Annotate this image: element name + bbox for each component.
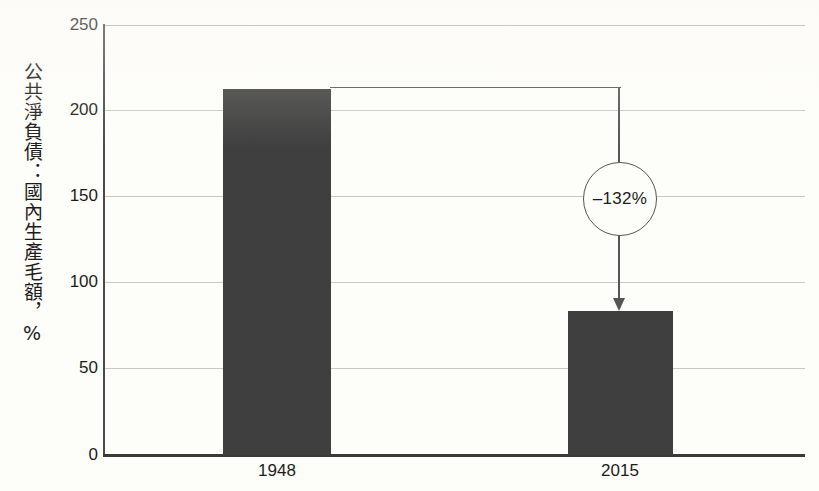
chart-canvas: 公共淨負債：國內生產毛額，% 250 200 150 100 50 0 1948… [0, 0, 819, 491]
gridline-50 [104, 368, 805, 369]
paper-scan-tint [0, 0, 819, 491]
y-tick-label-250: 250 [42, 15, 98, 35]
bar-2015[interactable] [568, 311, 673, 455]
y-tick-label-200: 200 [42, 100, 98, 120]
bar-1948[interactable] [223, 89, 331, 455]
x-axis-line [103, 454, 805, 457]
callout-connector-vertical [618, 87, 620, 162]
y-axis-title: 公共淨負債：國內生產毛額，% [8, 62, 42, 442]
callout-arrow-shaft [618, 234, 620, 302]
change-callout-badge: –132% [583, 162, 657, 236]
x-tick-label-2015: 2015 [601, 461, 639, 481]
gridline-150 [104, 196, 805, 197]
y-tick-label-150: 150 [42, 186, 98, 206]
y-tick-label-0: 0 [42, 445, 98, 465]
x-tick-label-1948: 1948 [258, 461, 296, 481]
gridline-200 [104, 110, 805, 111]
callout-connector-horizontal [330, 87, 621, 89]
gridline-250 [104, 25, 805, 26]
gridline-100 [104, 282, 805, 283]
callout-arrow-head-icon [613, 298, 625, 311]
y-tick-label-100: 100 [42, 272, 98, 292]
y-axis-line [103, 24, 105, 456]
y-tick-label-50: 50 [42, 358, 98, 378]
